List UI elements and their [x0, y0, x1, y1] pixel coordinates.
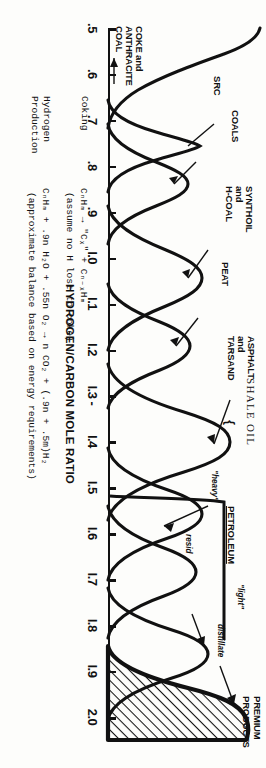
equation-row-hydrogen-production: Hydrogen Production CₙHₘ + .9n H₂O + .55…: [23, 96, 52, 756]
equation-formula-hydrogen-production: CₙHₘ + .9n H₂O + .55n O₂ → n CO₂ + (.9n …: [38, 188, 52, 756]
x-axis-line: [108, 28, 111, 740]
tick-label: .6: [85, 69, 100, 79]
label-asphalt-line1: ASPHALT: [246, 336, 256, 379]
equation-note-hydrogen-production: (approximate balance based on energy req…: [23, 188, 37, 756]
equation-formula-coking: CₙHₘ → "Cₓ" + Cₙ₋ₓHₘ: [76, 188, 90, 756]
equation-name-coking: Coking: [78, 96, 90, 188]
rotated-figure: .5 .6 .7 .8 .9 I.0 I.1 I.2 I.3 - I.4 I.5…: [0, 0, 266, 768]
label-light: "light": [236, 584, 244, 609]
shale-oil-brace: {: [223, 420, 238, 425]
label-synthoil-line1: SYNTHOIL: [244, 186, 254, 232]
label-synthoil-line3: H-COAL: [224, 186, 234, 222]
equation-note-coking: (assume no H lost to coke): [61, 188, 75, 756]
label-peat: PEAT: [220, 262, 230, 286]
label-heavy: "heavy": [210, 470, 218, 501]
curve-resid: [108, 506, 196, 638]
area-premium-products: [108, 646, 248, 740]
tick-label: .5: [85, 23, 100, 33]
label-coke-line1: COKE and: [134, 26, 144, 71]
curve-peat: [108, 284, 190, 408]
label-synthoil-line2: and: [234, 186, 244, 202]
label-distillate: distillate: [216, 624, 224, 657]
petroleum-bracket: [110, 496, 224, 640]
label-coke-line3: COAL: [114, 26, 124, 52]
curve-synthoil-hcoal: [108, 206, 202, 350]
label-premium-products-line2: PRODUCTS: [241, 696, 251, 748]
equation-row-coking: Coking CₙHₘ → "Cₓ" + Cₙ₋ₓHₘ (assume no H…: [61, 96, 90, 756]
label-petroleum: PETROLEUM: [226, 506, 236, 564]
label-resid: resid: [184, 534, 192, 554]
label-coke-line2: ANTHRACITE: [124, 26, 134, 86]
label-premium-products-line1: PREMIUM: [252, 696, 262, 739]
equations-block: Coking CₙHₘ → "Cₓ" + Cₙ₋ₓHₘ (assume no H…: [14, 96, 90, 756]
equation-name-hydrogen-production: Hydrogen Production: [28, 96, 52, 188]
label-asphalt-line3: TARSAND: [226, 336, 236, 380]
label-src: SRC: [212, 76, 222, 95]
label-shale-oil: SHALE OIL: [245, 378, 256, 446]
label-asphalt-line2: and: [236, 336, 246, 352]
label-coals: COALS: [230, 110, 240, 142]
